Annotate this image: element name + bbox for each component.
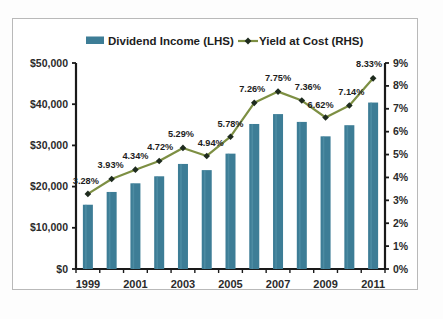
yield-data-label: 7.36% — [295, 82, 321, 92]
bar — [154, 176, 164, 269]
yield-data-label: 8.33% — [356, 59, 382, 69]
bar — [368, 103, 378, 269]
x-axis-tick-label: 2001 — [123, 278, 147, 290]
yield-data-label: 7.75% — [265, 73, 291, 83]
left-axis-tick-label: $40,000 — [30, 98, 68, 110]
bar-group — [83, 205, 93, 269]
bar-group — [321, 136, 331, 269]
bar-group — [249, 124, 259, 269]
yield-data-label: 3.93% — [98, 160, 124, 170]
right-axis-tick-label: 0% — [393, 263, 409, 275]
bar-highlight — [251, 124, 253, 269]
yield-marker — [132, 166, 139, 173]
yield-data-label: 7.14% — [338, 87, 364, 97]
yield-data-label: 5.29% — [168, 129, 194, 139]
bar — [344, 125, 354, 269]
right-axis-tick-label: 1% — [393, 240, 409, 252]
right-axis-tick-label: 9% — [393, 57, 409, 69]
right-axis-tick-label: 7% — [393, 102, 409, 114]
bar-group — [202, 170, 212, 269]
bar — [273, 114, 283, 269]
legend-bar-swatch — [86, 37, 104, 45]
bar-highlight — [204, 170, 206, 269]
bar — [178, 164, 188, 269]
bar — [321, 136, 331, 269]
bar-highlight — [299, 122, 301, 269]
legend-label-dividend-income: Dividend Income (LHS) — [108, 35, 234, 47]
bar-group — [178, 164, 188, 269]
bar-group — [154, 176, 164, 269]
yield-data-label: 5.78% — [217, 119, 243, 129]
bar — [249, 124, 259, 269]
bar-group — [344, 125, 354, 269]
bar-highlight — [180, 164, 182, 269]
bar-group — [130, 183, 140, 269]
right-axis-tick-label: 3% — [393, 194, 409, 206]
left-axis-tick-label: $10,000 — [30, 221, 68, 233]
x-axis-tick-label: 2007 — [266, 278, 290, 290]
legend-label-yield-at-cost: Yield at Cost (RHS) — [259, 35, 364, 47]
bar-highlight — [133, 183, 135, 269]
yield-data-label: 4.72% — [147, 142, 173, 152]
bar-group — [368, 103, 378, 269]
bar — [202, 170, 212, 269]
left-axis-tick-label: $20,000 — [30, 180, 68, 192]
bar-highlight — [109, 192, 111, 269]
bar-highlight — [347, 125, 349, 269]
bar — [226, 154, 236, 269]
bar-group — [297, 122, 307, 269]
bar — [297, 122, 307, 269]
yield-data-label: 4.94% — [198, 138, 224, 148]
x-axis-tick-label: 2009 — [313, 278, 337, 290]
right-axis-tick-label: 6% — [393, 125, 409, 137]
left-axis-tick-label: $0 — [56, 263, 68, 275]
bar-highlight — [85, 205, 87, 269]
chart-canvas: $0$10,000$20,000$30,000$40,000$50,0000%1… — [0, 0, 443, 319]
yield-marker — [275, 88, 282, 95]
bar-highlight — [275, 114, 277, 269]
legend-diamond-icon — [245, 38, 252, 45]
bar-highlight — [370, 103, 372, 269]
yield-data-label: 7.26% — [239, 84, 265, 94]
bar-highlight — [323, 136, 325, 269]
yield-data-label: 4.34% — [122, 151, 148, 161]
x-axis-tick-label: 2005 — [218, 278, 242, 290]
bar — [130, 183, 140, 269]
yield-data-label: 6.62% — [308, 100, 334, 110]
bar-group — [107, 192, 117, 269]
x-axis-tick-label: 2011 — [361, 278, 385, 290]
chart-container: $0$10,000$20,000$30,000$40,000$50,0000%1… — [0, 0, 443, 319]
bar — [83, 205, 93, 269]
right-axis-tick-label: 8% — [393, 79, 409, 91]
bar-highlight — [228, 154, 230, 269]
right-axis-tick-label: 4% — [393, 171, 409, 183]
yield-data-label: 3.28% — [73, 176, 99, 186]
left-axis-tick-label: $30,000 — [30, 139, 68, 151]
x-axis-tick-label: 2003 — [171, 278, 195, 290]
bar-group — [273, 114, 283, 269]
right-axis-tick-label: 2% — [393, 217, 409, 229]
x-axis-tick-label: 1999 — [76, 278, 100, 290]
bar-group — [226, 154, 236, 269]
left-axis-tick-label: $50,000 — [30, 57, 68, 69]
bar — [107, 192, 117, 269]
bar-highlight — [156, 176, 158, 269]
right-axis-tick-label: 5% — [393, 148, 409, 160]
